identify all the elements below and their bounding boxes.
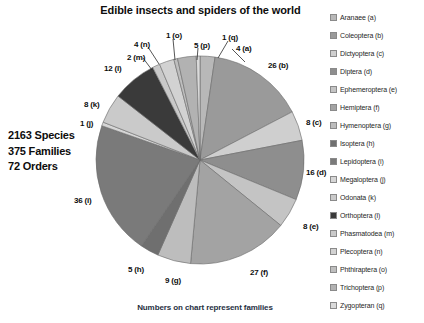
legend-item-label: Phasmatodea (m) [340,230,394,237]
slice-label-f: 27 (f) [250,268,268,277]
legend-swatch-icon [330,68,337,75]
legend-item[interactable]: Aranaee (a) [330,8,424,26]
legend-item[interactable]: Isoptera (h) [330,134,424,152]
legend-item[interactable]: Dictyoptera (c) [330,44,424,62]
legend-item[interactable]: Ephemeroptera (e) [330,80,424,98]
legend-item[interactable]: Trichoptera (p) [330,278,424,296]
legend-swatch-icon [330,32,337,39]
legend-swatch-icon [330,176,337,183]
legend-item[interactable]: Orthoptera (l) [330,206,424,224]
slice-label-l: 12 (l) [104,64,121,73]
slice-label-k: 8 (k) [84,100,99,109]
legend-swatch-icon [330,158,337,165]
slice-label-d: 16 (d) [306,168,326,177]
pie-svg [0,0,330,300]
legend-swatch-icon [330,122,337,129]
legend-item-label: Phthiraptera (o) [340,266,387,273]
leader-line-n [148,47,159,64]
legend-swatch-icon [330,266,337,273]
slice-label-n: 4 (n) [134,40,150,49]
legend-swatch-icon [330,50,337,57]
legend-item-label: Plecoptera (n) [340,248,383,255]
legend-item-label: Ephemeroptera (e) [340,86,397,93]
legend-swatch-icon [330,194,337,201]
legend-swatch-icon [330,14,337,21]
legend-item-label: Hymenoptera (g) [340,122,391,129]
slice-label-m: 2 (m) [127,53,145,62]
legend-item[interactable]: Plecoptera (n) [330,242,424,260]
chart-legend: Aranaee (a)Coleoptera (b)Dictyoptera (c)… [330,8,424,314]
slice-label-c: 8 (c) [306,118,321,127]
legend-item-label: Hemiptera (f) [340,104,380,111]
slice-label-a: 4 (a) [236,44,251,53]
slice-label-j: 1 (j) [80,119,93,128]
legend-item-label: Trichoptera (p) [340,284,384,291]
legend-item-label: Orthoptera (l) [340,212,380,219]
pie-slices [96,56,304,264]
legend-item-label: Lepidoptera (i) [340,158,384,165]
legend-item[interactable]: Diptera (d) [330,62,424,80]
legend-item[interactable]: Odonata (k) [330,188,424,206]
legend-item[interactable]: Coleoptera (b) [330,26,424,44]
legend-item[interactable]: Megaloptera (j) [330,170,424,188]
legend-item-label: Odonata (k) [340,194,376,201]
legend-item-label: Zygopteran (q) [340,302,385,309]
legend-item-label: Dictyoptera (c) [340,50,384,57]
pie-chart-figure: Edible insects and spiders of the world … [0,0,424,323]
pie-graphic [0,0,330,300]
legend-swatch-icon [330,248,337,255]
legend-swatch-icon [330,86,337,93]
legend-swatch-icon [330,140,337,147]
legend-item-label: Coleoptera (b) [340,32,383,39]
slice-label-o: 1 (o) [166,31,182,40]
legend-swatch-icon [330,284,337,291]
leader-line-o [173,39,175,60]
legend-item-label: Isoptera (h) [340,140,375,147]
slice-label-p: 5 (p) [194,41,210,50]
legend-swatch-icon [330,104,337,111]
legend-swatch-icon [330,212,337,219]
leader-line-q [218,41,228,58]
legend-item[interactable]: Hemiptera (f) [330,98,424,116]
slice-label-h: 5 (h) [128,265,144,274]
legend-swatch-icon [330,302,337,309]
slice-label-q: 1 (q) [222,33,238,42]
legend-swatch-icon [330,230,337,237]
slice-label-e: 8 (e) [303,222,318,231]
slice-label-g: 9 (g) [165,276,181,285]
legend-item-label: Megaloptera (j) [340,176,386,183]
legend-item[interactable]: Zygopteran (q) [330,296,424,314]
slice-label-b: 26 (b) [268,61,288,70]
legend-item[interactable]: Phasmatodea (m) [330,224,424,242]
chart-caption: Numbers on chart represent families [60,303,350,312]
legend-item-label: Diptera (d) [340,68,372,75]
legend-item[interactable]: Hymenoptera (g) [330,116,424,134]
legend-item[interactable]: Lepidoptera (i) [330,152,424,170]
slice-label-i: 36 (i) [74,196,91,205]
legend-item[interactable]: Phthiraptera (o) [330,260,424,278]
legend-item-label: Aranaee (a) [340,14,376,21]
